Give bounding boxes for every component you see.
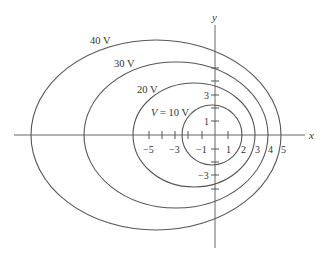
contour-label-40v: 40 V xyxy=(90,35,111,46)
x-tick-label: −1 xyxy=(196,144,207,155)
y-tick-label: 1 xyxy=(204,116,209,127)
x-tick-label: −3 xyxy=(169,144,180,155)
contour-label-20v: 20 V xyxy=(137,84,158,95)
y-axis-label: y xyxy=(211,11,217,23)
x-tick-label: 2 xyxy=(241,144,246,155)
contour-label-30v: 30 V xyxy=(114,58,135,69)
x-tick-label: −5 xyxy=(143,144,154,155)
contour-label-10v: V = 10 V xyxy=(151,107,190,118)
x-tick-label: 1 xyxy=(226,144,231,155)
x-axis-label: x xyxy=(308,129,314,141)
y-tick-label: 3 xyxy=(204,90,209,101)
y-tick-label: −3 xyxy=(198,170,209,181)
x-tick-label: 4 xyxy=(268,144,273,155)
diagram-canvas: x y −5 −3 −1 1 2 3 4 5 3 1 −3 40 V 30 V … xyxy=(0,0,325,258)
equipotential-diagram: x y −5 −3 −1 1 2 3 4 5 3 1 −3 40 V 30 V … xyxy=(0,0,325,258)
x-tick-label: 3 xyxy=(255,144,260,155)
x-tick-label: 5 xyxy=(281,144,286,155)
